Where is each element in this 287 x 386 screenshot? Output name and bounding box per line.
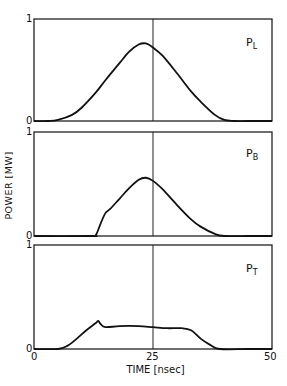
panel-label-main: P xyxy=(246,262,253,275)
panel-pl xyxy=(34,19,272,121)
panel-label-sub: B xyxy=(253,153,259,162)
panel-label-sub: L xyxy=(253,42,257,51)
panel-label-pb: PB xyxy=(246,147,258,162)
y-axis-title: POWER [MW] xyxy=(3,151,14,219)
panel-pb xyxy=(34,132,272,236)
panel-label-pt: PT xyxy=(246,262,258,277)
x-tick-50: 50 xyxy=(264,352,277,362)
panel-label-sub: T xyxy=(253,268,258,277)
x-tick-25: 25 xyxy=(146,352,159,362)
x-tick-0: 0 xyxy=(31,352,37,362)
panel-label-main: P xyxy=(246,36,253,49)
y-tick-1-panel-3: 1 xyxy=(26,240,32,250)
chart-canvas xyxy=(0,0,287,386)
x-axis-title: TIME [nsec] xyxy=(0,364,287,375)
y-tick-1-panel-2: 1 xyxy=(26,127,32,137)
panel-label-pl: PL xyxy=(246,36,257,51)
panel-label-main: P xyxy=(246,147,253,160)
y-tick-1-panel-1: 1 xyxy=(26,14,32,24)
panel-pt xyxy=(34,245,272,349)
y-tick-0-panel-1: 0 xyxy=(26,116,32,126)
